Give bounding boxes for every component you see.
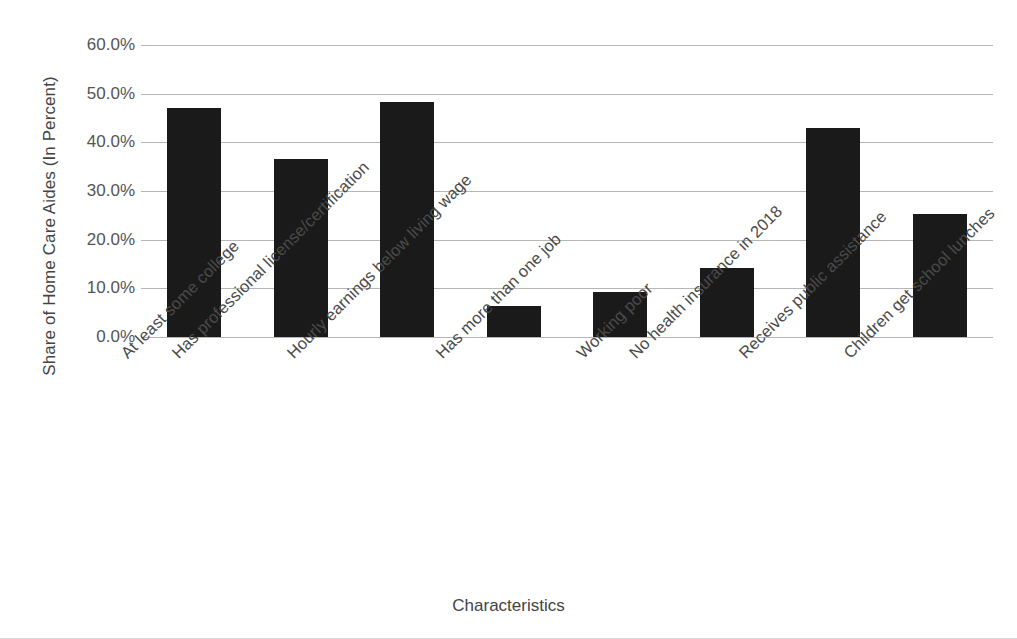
bar-slot	[567, 45, 674, 337]
bar-chart: Share of Home Care Aides (In Percent) 0.…	[0, 0, 1017, 639]
y-axis-tick-label: 60.0%	[63, 35, 135, 55]
x-axis-title: Characteristics	[0, 596, 1017, 616]
y-axis-tick-label: 40.0%	[63, 132, 135, 152]
bars-layer	[141, 45, 993, 337]
y-axis-title: Share of Home Care Aides (In Percent)	[40, 36, 60, 416]
y-axis-tick-label: 10.0%	[63, 278, 135, 298]
y-axis-tick-label: 30.0%	[63, 181, 135, 201]
y-axis-tick-labels: 0.0%10.0%20.0%30.0%40.0%50.0%60.0%	[60, 45, 135, 337]
x-axis-category-labels: At least some collegeHas professional li…	[141, 343, 993, 573]
y-axis-tick-label: 50.0%	[63, 84, 135, 104]
y-axis-tick-label: 20.0%	[63, 230, 135, 250]
